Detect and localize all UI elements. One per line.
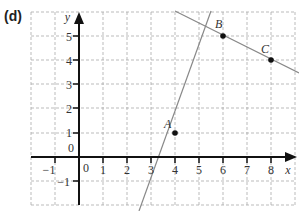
coordinate-plane: −1 0 1 2 3 4 5 6 7 8 x −1 0 1 2 3 4 5 y … — [0, 0, 299, 211]
y-tick-label: 3 — [66, 78, 72, 92]
x-tick-label: 3 — [148, 163, 154, 177]
x-tick-label: 2 — [124, 163, 130, 177]
x-tick-label: 5 — [196, 163, 202, 177]
point-b-label: B — [215, 17, 223, 31]
x-axis-label: x — [284, 163, 291, 177]
x-tick-label: 8 — [268, 163, 274, 177]
y-axis-label: y — [64, 10, 71, 24]
x-tick-label: 0 — [83, 161, 89, 175]
y-tick-label: 4 — [66, 54, 72, 68]
line-ab — [139, 11, 211, 211]
point-c-label: C — [261, 42, 270, 56]
y-tick-label: 1 — [66, 126, 72, 140]
x-tick-label: 6 — [220, 163, 226, 177]
y-tick-label: −1 — [57, 175, 70, 189]
point-a-label: A — [163, 117, 172, 131]
x-tick-label: 4 — [172, 163, 178, 177]
x-tick-label: −1 — [43, 163, 56, 177]
y-tick-label: 2 — [66, 102, 72, 116]
point-c — [268, 57, 274, 63]
x-tick-label: 7 — [244, 163, 250, 177]
line-bc — [175, 11, 299, 73]
y-tick-label: 0 — [68, 141, 74, 155]
y-tick-label: 5 — [66, 30, 72, 44]
point-b — [220, 33, 226, 39]
y-axis-arrow-icon — [74, 12, 84, 24]
point-a — [172, 130, 178, 136]
x-tick-label: 1 — [100, 163, 106, 177]
